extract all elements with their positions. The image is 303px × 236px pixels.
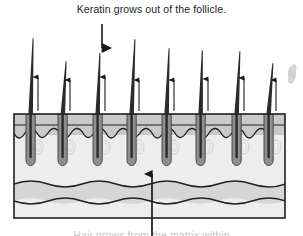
hair-shaft [266, 63, 273, 114]
skin-layers [13, 114, 286, 218]
growth-arrows [38, 77, 276, 111]
hair-shaft [28, 38, 33, 114]
bottom-caption: Hair grows from the matrix within [0, 229, 303, 236]
diagram-canvas [0, 0, 303, 236]
hair-shafts [28, 38, 273, 114]
hair-shaft [95, 53, 100, 114]
hair-shaft [234, 51, 240, 114]
skin-hair-follicle-diagram: Keratin grows out of the follicle. [0, 0, 303, 236]
scan-smudge-artifact [288, 64, 297, 84]
hair-shaft [129, 39, 135, 114]
hair-shaft [61, 61, 67, 114]
hair-shaft [164, 48, 169, 114]
hair-shaft [198, 50, 203, 114]
top-caption: Keratin grows out of the follicle. [0, 3, 303, 15]
